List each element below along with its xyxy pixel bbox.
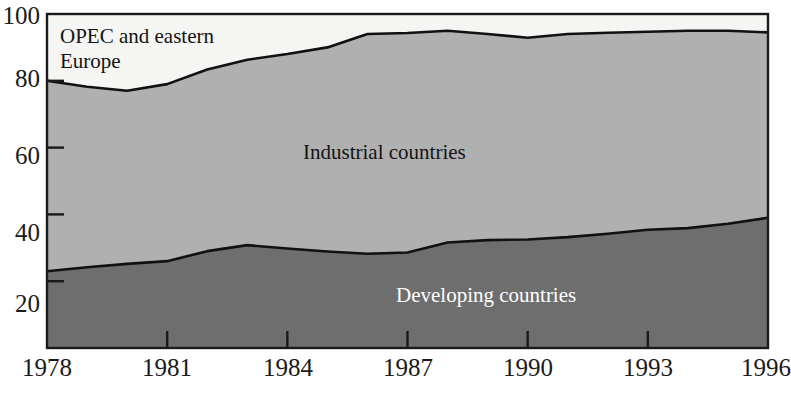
series-annotation-industrial-countries: Industrial countries	[303, 140, 466, 165]
x-tick-label-1993: 1993	[623, 355, 673, 380]
x-tick-label-1987: 1987	[383, 355, 433, 380]
x-tick-label-1996: 1996	[741, 355, 791, 380]
x-tick-label-1990: 1990	[503, 355, 553, 380]
series-annotation-developing-countries: Developing countries	[396, 283, 576, 308]
series-annotation-opec-and-eastern-europe: OPEC and eastern Europe	[60, 24, 214, 74]
x-tick-label-1981: 1981	[142, 355, 192, 380]
x-tick-label-1984: 1984	[263, 355, 313, 380]
x-tick-label-1978: 1978	[22, 355, 72, 380]
x-axis-tick-labels: 1978 1981 1984 1987 1990 1993 1996	[0, 355, 788, 397]
